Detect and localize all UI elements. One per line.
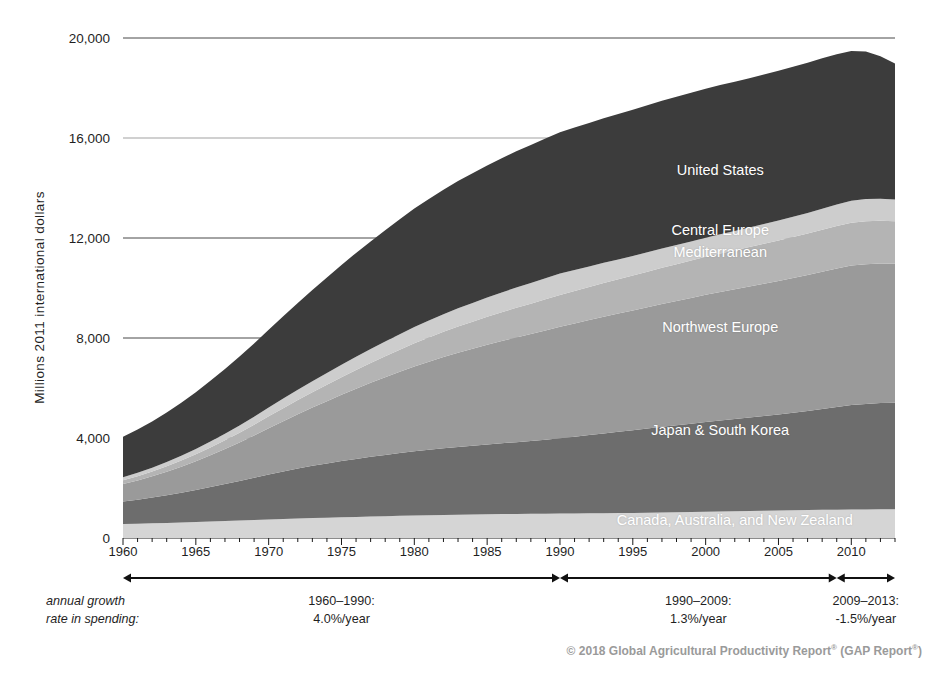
y-axis-title: Millions 2011 international dollars xyxy=(32,83,47,513)
chart-plot-area xyxy=(0,0,938,676)
growth-segment-rate-2: -1.5%/year xyxy=(833,610,900,628)
y-tick-label-4000: 4,000 xyxy=(48,431,110,446)
growth-segment-rate-0: 4.0%/year xyxy=(308,610,375,628)
x-tick-label-1985: 1985 xyxy=(473,544,502,559)
x-tick-label-1990: 1990 xyxy=(546,544,575,559)
area-series-5 xyxy=(123,51,895,477)
growth-caption-line-1: annual growth xyxy=(46,592,139,610)
growth-segment-rate-1: 1.3%/year xyxy=(665,610,732,628)
y-tick-label-12000: 12,000 xyxy=(48,231,110,246)
area-series-4 xyxy=(123,199,895,481)
copyright-text-paren: (GAP Report xyxy=(837,644,912,658)
arrow-head-left xyxy=(560,574,568,583)
band-label-5: Canada, Australia, and New Zealand xyxy=(617,512,853,528)
copyright-text-main: © 2018 Global Agricultural Productivity … xyxy=(567,644,831,658)
arrow-head-right xyxy=(552,574,560,583)
y-tick-label-16000: 16,000 xyxy=(48,131,110,146)
band-label-0: United States xyxy=(677,162,764,178)
area-series-3 xyxy=(123,221,895,484)
x-tick-label-2010: 2010 xyxy=(837,544,866,559)
growth-segment-period-2: 2009–2013: xyxy=(833,592,900,610)
growth-segment-period-1: 1990–2009: xyxy=(665,592,732,610)
stacked-area-chart-figure: Millions 2011 international dollars 04,0… xyxy=(0,0,938,676)
arrow-head-left xyxy=(837,574,845,583)
x-tick-label-1960: 1960 xyxy=(109,544,138,559)
x-tick-label-2005: 2005 xyxy=(764,544,793,559)
growth-segment-0: 1960–1990:4.0%/year xyxy=(308,592,375,629)
x-tick-label-1970: 1970 xyxy=(254,544,283,559)
x-tick-label-2000: 2000 xyxy=(691,544,720,559)
x-tick-label-1980: 1980 xyxy=(400,544,429,559)
area-series-2 xyxy=(123,264,895,502)
band-label-1: Central Europe xyxy=(671,222,769,238)
y-tick-label-0: 0 xyxy=(48,531,110,546)
band-label-2: Mediterranean xyxy=(673,244,767,260)
growth-arrow-2 xyxy=(837,574,895,583)
growth-arrow-1 xyxy=(560,574,837,583)
x-tick-label-1995: 1995 xyxy=(618,544,647,559)
growth-caption-line-2: rate in spending: xyxy=(46,610,139,628)
growth-segment-1: 1990–2009:1.3%/year xyxy=(665,592,732,629)
growth-arrow-0 xyxy=(123,574,560,583)
growth-segment-period-0: 1960–1990: xyxy=(308,592,375,610)
growth-rate-caption: annual growth rate in spending: xyxy=(46,592,139,629)
arrow-head-right xyxy=(829,574,837,583)
y-axis-tick-labels: 04,0008,00012,00016,00020,000 xyxy=(48,0,110,676)
band-label-3: Northwest Europe xyxy=(662,319,778,335)
arrow-head-right xyxy=(887,574,895,583)
x-tick-label-1975: 1975 xyxy=(327,544,356,559)
band-label-4: Japan & South Korea xyxy=(651,422,789,438)
copyright-notice: © 2018 Global Agricultural Productivity … xyxy=(567,643,922,658)
y-tick-label-20000: 20,000 xyxy=(48,31,110,46)
arrow-head-left xyxy=(123,574,131,583)
y-tick-label-8000: 8,000 xyxy=(48,331,110,346)
growth-segment-2: 2009–2013:-1.5%/year xyxy=(833,592,900,629)
x-tick-label-1965: 1965 xyxy=(181,544,210,559)
copyright-text-close: ) xyxy=(918,644,922,658)
